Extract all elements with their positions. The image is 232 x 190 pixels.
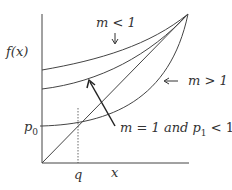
y-axis-label: f(x) (6, 45, 28, 58)
p0-label: p0 (24, 120, 38, 137)
label-m-greater-1: m > 1 (188, 74, 228, 87)
label-m-equal-1-text: m = 1 and p (120, 120, 201, 135)
label-m-equal-1: m = 1 and p1 < 1 (120, 121, 232, 138)
q-label: q (74, 168, 82, 181)
label-m-less-1: m < 1 (96, 16, 136, 29)
diagram: f(x) m < 1 m > 1 m = 1 and p1 < 1 p0 q x (0, 0, 232, 190)
p0-subscript: 0 (32, 127, 38, 137)
arrow-left-icon (164, 78, 178, 84)
curve-m-greater-1 (42, 14, 188, 126)
y-axis-label-text: f(x) (6, 44, 28, 59)
x-axis-label: x (111, 166, 118, 179)
label-m-equal-1-tail: < 1 (207, 120, 232, 135)
arrow-down-icon (112, 33, 118, 44)
